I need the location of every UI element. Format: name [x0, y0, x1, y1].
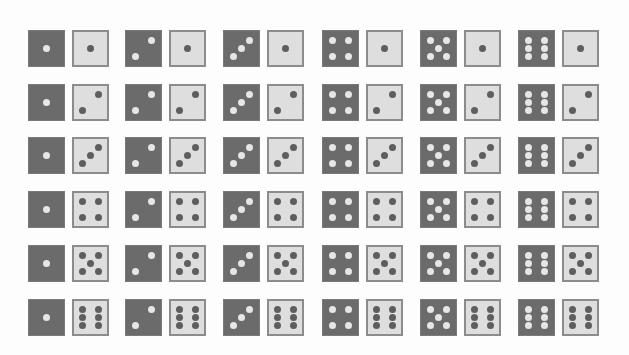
pip-icon — [290, 252, 297, 259]
pip-icon — [443, 91, 450, 98]
pip-icon — [577, 260, 584, 267]
pip-icon — [427, 252, 434, 259]
pip-icon — [345, 91, 352, 98]
pip-icon — [238, 152, 245, 159]
pip-icon — [381, 152, 388, 159]
pip-icon — [471, 306, 478, 313]
pip-icon — [389, 144, 396, 151]
pip-icon — [95, 252, 102, 259]
pip-icon — [192, 214, 199, 221]
dark-die-6 — [518, 84, 555, 121]
light-die-1 — [366, 30, 403, 67]
pip-icon — [238, 314, 245, 321]
pip-icon — [577, 152, 584, 159]
light-die-3 — [366, 137, 403, 174]
pip-icon — [471, 268, 478, 275]
dark-die-2 — [125, 299, 162, 336]
dark-die-4 — [322, 245, 359, 282]
pip-icon — [329, 144, 336, 151]
pip-icon — [329, 160, 336, 167]
pip-icon — [79, 322, 86, 329]
pip-icon — [443, 306, 450, 313]
pip-icon — [541, 152, 548, 159]
light-die-5 — [267, 245, 304, 282]
dice-pair — [322, 245, 406, 284]
pip-icon — [274, 314, 281, 321]
dice-pair — [28, 245, 112, 284]
pip-icon — [541, 252, 548, 259]
pip-icon — [525, 198, 532, 205]
pip-icon — [541, 144, 548, 151]
pip-icon — [345, 322, 352, 329]
pip-icon — [238, 99, 245, 106]
pip-icon — [274, 160, 281, 167]
pip-icon — [79, 306, 86, 313]
pip-icon — [290, 91, 297, 98]
pip-icon — [43, 206, 50, 213]
dark-die-5 — [420, 84, 457, 121]
pip-icon — [282, 152, 289, 159]
pip-icon — [148, 37, 155, 44]
pip-icon — [230, 53, 237, 60]
pip-icon — [329, 37, 336, 44]
pip-icon — [443, 268, 450, 275]
pip-icon — [184, 260, 191, 267]
dark-die-4 — [322, 191, 359, 228]
pip-icon — [487, 91, 494, 98]
pip-icon — [230, 214, 237, 221]
pip-icon — [230, 160, 237, 167]
pip-icon — [569, 214, 576, 221]
pip-icon — [238, 260, 245, 267]
pip-icon — [389, 198, 396, 205]
dice-pair — [420, 299, 504, 338]
pip-icon — [569, 314, 576, 321]
pip-icon — [487, 198, 494, 205]
pip-icon — [192, 306, 199, 313]
light-die-4 — [366, 191, 403, 228]
dice-pair — [125, 191, 209, 230]
pip-icon — [373, 314, 380, 321]
pip-icon — [525, 214, 532, 221]
dice-pair — [420, 84, 504, 123]
dice-pair — [223, 245, 307, 284]
pip-icon — [471, 160, 478, 167]
pip-icon — [381, 260, 388, 267]
pip-icon — [329, 268, 336, 275]
pip-icon — [329, 91, 336, 98]
pip-icon — [176, 160, 183, 167]
dark-die-1 — [28, 30, 65, 67]
pip-icon — [569, 268, 576, 275]
pip-icon — [525, 53, 532, 60]
pip-icon — [345, 107, 352, 114]
pip-icon — [427, 198, 434, 205]
pip-icon — [569, 107, 576, 114]
pip-icon — [79, 268, 86, 275]
pip-icon — [87, 152, 94, 159]
dice-pair — [322, 299, 406, 338]
pip-icon — [487, 322, 494, 329]
pip-icon — [471, 107, 478, 114]
pip-icon — [541, 160, 548, 167]
light-die-6 — [169, 299, 206, 336]
pip-icon — [132, 268, 139, 275]
pip-icon — [345, 37, 352, 44]
pip-icon — [373, 214, 380, 221]
dice-pair — [125, 84, 209, 123]
pip-icon — [569, 322, 576, 329]
pip-icon — [43, 314, 50, 321]
pip-icon — [95, 268, 102, 275]
pip-icon — [487, 144, 494, 151]
pip-icon — [246, 37, 253, 44]
pip-icon — [282, 45, 289, 52]
dice-pair — [28, 84, 112, 123]
pip-icon — [373, 322, 380, 329]
pip-icon — [435, 206, 442, 213]
light-die-4 — [72, 191, 109, 228]
pip-icon — [274, 252, 281, 259]
pip-icon — [132, 322, 139, 329]
pip-icon — [541, 206, 548, 213]
pip-icon — [585, 91, 592, 98]
pip-icon — [282, 260, 289, 267]
pip-icon — [230, 107, 237, 114]
pip-icon — [487, 306, 494, 313]
